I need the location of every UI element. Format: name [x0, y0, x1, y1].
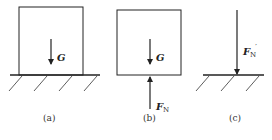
ground-hatch — [196, 76, 259, 91]
force-label-fn: FN — [155, 101, 169, 114]
caption-b: (b) — [143, 113, 156, 123]
caption-c: (c) — [229, 113, 241, 123]
panel-a: G (a) — [9, 7, 100, 123]
block — [117, 10, 181, 75]
caption-a: (a) — [43, 113, 55, 123]
force-label-g: G — [156, 52, 165, 63]
force-label-fn-prime: FN′ — [242, 43, 257, 59]
force-diagram: G (a) G FN (b) FN′ (c) — [0, 0, 272, 140]
panel-b: G FN (b) — [117, 10, 181, 123]
panel-c: FN′ (c) — [196, 10, 264, 123]
ground-hatch — [9, 76, 97, 91]
force-label-g: G — [57, 52, 66, 63]
